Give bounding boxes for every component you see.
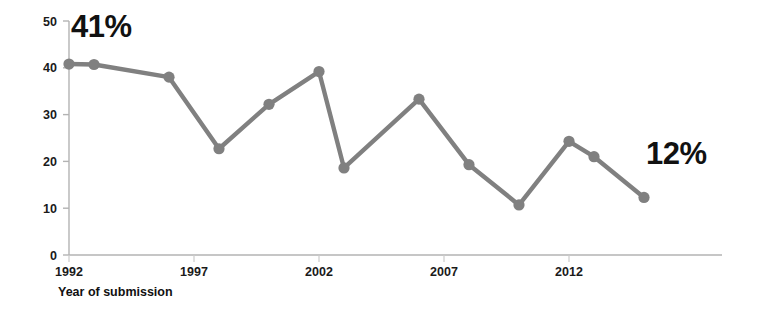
data-point [588,151,599,162]
data-point [313,66,324,77]
y-axis-tick-label: 20 [43,155,57,169]
y-axis-tick-label: 0 [50,249,57,263]
data-point [63,58,74,69]
chart-annotations: 41%12% [71,9,707,170]
y-axis-tick-labels: 01020304050 [43,15,57,263]
x-axis-ticks [69,255,569,262]
data-point [513,199,524,210]
data-series [63,58,649,210]
y-axis: 01020304050 [43,15,69,263]
x-axis-tick-label: 2007 [430,265,458,279]
series-line [69,64,644,205]
data-point [338,162,349,173]
data-point [413,94,424,105]
x-axis-title: Year of submission [58,285,173,299]
x-axis: 19921997200220072012 [55,255,722,279]
data-point [163,72,174,83]
data-point [263,99,274,110]
value-annotation: 12% [646,136,707,171]
chart-canvas: 01020304050 19921997200220072012 41%12% … [0,0,763,309]
y-axis-tick-label: 30 [43,108,57,122]
data-point [213,143,224,154]
x-axis-tick-labels: 19921997200220072012 [55,265,583,279]
x-axis-tick-label: 2012 [555,265,583,279]
data-point [463,159,474,170]
line-chart: 01020304050 19921997200220072012 41%12% … [0,0,763,309]
x-axis-tick-label: 2002 [305,265,333,279]
x-axis-tick-label: 1997 [180,265,208,279]
data-point [563,136,574,147]
series-markers [63,58,649,210]
y-axis-tick-label: 10 [43,202,57,216]
y-axis-tick-label: 40 [43,61,57,75]
y-axis-tick-label: 50 [43,15,57,29]
value-annotation: 41% [71,9,132,44]
x-axis-tick-label: 1992 [55,265,83,279]
y-axis-ticks [63,21,69,255]
data-point [638,192,649,203]
data-point [88,59,99,70]
